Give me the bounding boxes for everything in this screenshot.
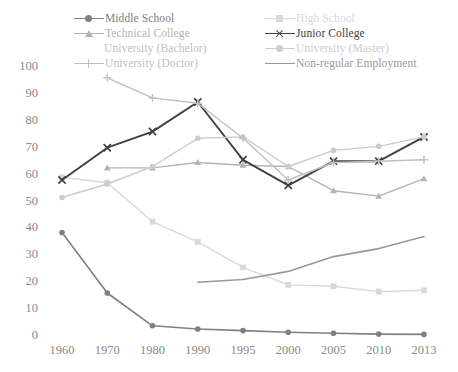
data-point-dot	[240, 328, 246, 334]
data-point-dot	[376, 331, 382, 337]
series-non-regular-employment	[198, 237, 424, 283]
x-axis-tick-label: 2013	[401, 344, 447, 357]
y-axis-tick-label: 60	[4, 168, 38, 181]
y-axis-tick-label: 100	[4, 60, 38, 73]
series-line	[62, 232, 424, 334]
x-axis-tick-label: 1990	[175, 344, 221, 357]
series-line	[198, 237, 424, 283]
data-point-plus	[420, 156, 428, 164]
data-point-dot	[421, 134, 427, 140]
series-high-school	[59, 174, 427, 294]
data-point-dot	[421, 332, 427, 338]
data-point-dot	[150, 164, 156, 170]
data-point-plus	[103, 74, 111, 82]
x-axis-tick-label: 1995	[220, 344, 266, 357]
data-point-square	[421, 287, 427, 293]
data-point-dot	[195, 326, 201, 332]
series-middle-school	[59, 230, 427, 338]
data-point-triangle	[421, 175, 428, 181]
line-chart: Middle SchoolTechnical CollegeUniversity…	[0, 0, 458, 372]
plot-svg	[0, 0, 458, 372]
data-point-dot	[195, 135, 201, 141]
series-line	[62, 102, 424, 185]
data-point-plus	[149, 94, 157, 102]
y-axis-tick-label: 40	[4, 221, 38, 234]
y-axis-tick-label: 70	[4, 141, 38, 154]
data-point-square	[195, 239, 201, 245]
x-axis-tick-label: 2010	[356, 344, 402, 357]
data-point-dot	[59, 230, 65, 236]
x-axis-tick-label: 1960	[39, 344, 85, 357]
data-point-dot	[331, 148, 337, 154]
data-point-dot	[104, 181, 110, 187]
data-point-dot	[59, 195, 65, 201]
data-point-dot	[285, 329, 291, 335]
data-point-dot	[104, 290, 110, 296]
y-axis-tick-label: 10	[4, 302, 38, 315]
data-point-square	[150, 219, 156, 225]
y-axis-tick-label: 20	[4, 275, 38, 288]
x-axis-tick-label: 2005	[311, 344, 357, 357]
x-axis-tick-label: 2000	[265, 344, 311, 357]
data-point-square	[240, 265, 246, 271]
data-point-square	[376, 289, 382, 295]
x-axis-tick-label: 1980	[130, 344, 176, 357]
y-axis-tick-label: 0	[4, 329, 38, 342]
data-point-square	[331, 283, 337, 289]
data-point-square	[285, 282, 291, 288]
data-point-dot	[376, 144, 382, 150]
data-point-plus	[330, 158, 338, 166]
data-point-dot	[150, 323, 156, 329]
y-axis-tick-label: 30	[4, 248, 38, 261]
series-junior-college	[58, 98, 427, 189]
data-point-dot	[331, 331, 337, 337]
plot-area: 1009080706050403020100 19601970198019901…	[0, 0, 458, 372]
y-axis-tick-label: 80	[4, 114, 38, 127]
y-axis-tick-label: 90	[4, 87, 38, 100]
x-axis-tick-label: 1970	[84, 344, 130, 357]
y-axis-tick-label: 50	[4, 195, 38, 208]
data-point-dot	[285, 164, 291, 170]
